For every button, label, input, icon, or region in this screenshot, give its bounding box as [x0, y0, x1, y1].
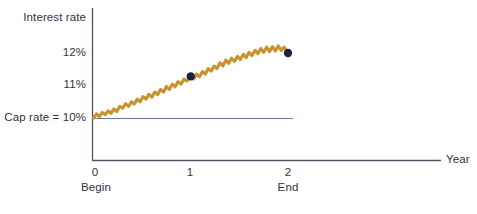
data-series [94, 46, 289, 118]
y-axis-tick-11: 11% [0, 78, 86, 91]
y-axis-tick-12: 12% [0, 46, 86, 59]
x-axis-tick-1: 1 [175, 166, 205, 179]
marker-rate-at-year-2 [284, 49, 292, 57]
data-point-markers [187, 49, 293, 81]
x-axis-title: Year [446, 153, 477, 166]
interest-rate-chart: Interest rate 12% 11% Cap rate = 10% 0 B… [0, 0, 477, 214]
x-axis-tick-0-sublabel: Begin [78, 181, 114, 194]
x-axis-tick-2-sublabel: End [270, 181, 306, 194]
marker-rate-at-year-1 [187, 72, 195, 80]
chart-axes [92, 8, 441, 161]
x-axis-tick-2: 2 [273, 166, 303, 179]
x-axis-tick-0: 0 [80, 166, 110, 179]
series-line-0 [94, 46, 289, 118]
chart-plot-area [0, 0, 477, 214]
cap-rate-label: Cap rate = 10% [0, 111, 86, 124]
y-axis-title: Interest rate [0, 11, 86, 24]
